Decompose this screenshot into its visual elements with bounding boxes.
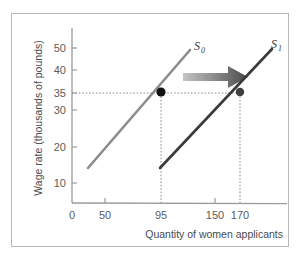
y-tick-label-20: 20 [54, 141, 66, 153]
x-tick-label-95: 95 [155, 209, 167, 221]
equilibrium-point-initial [156, 87, 165, 96]
x-tick-label-170: 170 [231, 209, 249, 221]
x-tick-label-50: 50 [99, 209, 111, 221]
equilibrium-point-new [236, 88, 244, 96]
x-tick-label-0: 0 [69, 209, 75, 221]
x-axis-title: Quantity of women applicants [145, 228, 283, 240]
y-tick-label-30: 30 [54, 104, 66, 116]
y-tick-label-10: 10 [54, 177, 66, 189]
curve-label-s1: S 1 [271, 37, 282, 53]
curve-label-s0: S 0 [194, 39, 205, 55]
figure-container: 50 40 35 30 20 10 0 50 95 150 170 [0, 0, 303, 265]
y-tick-marks [72, 48, 77, 183]
y-tick-label-35: 35 [54, 87, 66, 99]
y-tick-label-40: 40 [54, 64, 66, 76]
y-tick-label-50: 50 [54, 42, 66, 54]
chart-canvas: 50 40 35 30 20 10 0 50 95 150 170 [0, 0, 303, 265]
svg-text:1: 1 [278, 44, 282, 53]
y-axis-title: Wage rate (thousands of pounds) [32, 40, 44, 195]
svg-text:0: 0 [201, 46, 205, 55]
supply-curve-s0 [88, 50, 190, 168]
svg-text:S: S [271, 37, 277, 51]
svg-text:S: S [194, 39, 200, 53]
x-tick-marks [105, 198, 215, 203]
x-tick-label-150: 150 [206, 209, 224, 221]
x-axis [72, 203, 287, 204]
